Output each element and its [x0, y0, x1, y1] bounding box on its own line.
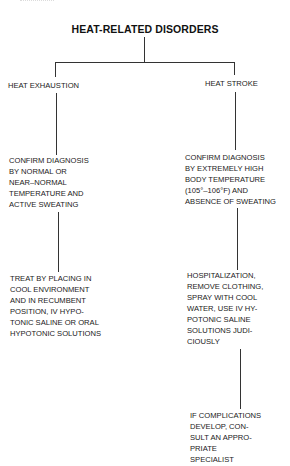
text-line: TREAT BY PLACING IN: [10, 273, 101, 284]
text-line: WATER, USE IV HY-: [187, 303, 263, 314]
node-heat-exhaustion: HEAT EXHAUSTION: [8, 81, 79, 90]
text-line: TONIC SALINE OR ORAL: [10, 317, 101, 328]
text-line: TEMPERATURE AND: [9, 188, 89, 199]
text-line: SPECIALIST: [190, 454, 261, 465]
text-line: (105°–106°F) AND: [185, 185, 276, 196]
connector-bar-to-left-label: [55, 62, 56, 77]
connector-exhaustion-to-diagnosis: [56, 93, 57, 155]
text-line: CIOUSLY: [187, 336, 263, 347]
connector-horizontal-bar: [55, 62, 235, 63]
diagram-title: HEAT-RELATED DISORDERS: [0, 23, 290, 35]
text-line: NEAR–NORMAL: [9, 177, 89, 188]
text-line: BODY TEMPERATURE: [185, 174, 276, 185]
text-line: BY EXTREMELY HIGH: [185, 163, 276, 174]
text-line: AND IN RECUMBENT: [10, 295, 101, 306]
node-heat-stroke: HEAT STROKE: [205, 79, 258, 88]
node-exhaustion-treatment: TREAT BY PLACING IN COOL ENVIRONMENT AND…: [10, 273, 101, 339]
node-stroke-treatment: HOSPITALIZATION, REMOVE CLOTHING, SPRAY …: [187, 270, 263, 347]
connector-bar-to-right-label: [234, 62, 235, 75]
cropped-text-fragment: [20, 0, 54, 1]
text-line: IF COMPLICATIONS: [190, 410, 261, 421]
text-line: ABSENCE OF SWEATING: [185, 196, 276, 207]
text-line: HOSPITALIZATION,: [187, 270, 263, 281]
connector-title-to-bar: [144, 37, 145, 62]
text-line: COOL ENVIRONMENT: [10, 284, 101, 295]
text-line: POTONIC SALINE: [187, 314, 263, 325]
text-line: CONFIRM DIAGNOSIS: [185, 152, 276, 163]
text-line: SPRAY WITH COOL: [187, 292, 263, 303]
text-line: DEVELOP, CON-: [190, 421, 261, 432]
connector-stroke-diagnosis-to-treatment: [237, 208, 238, 270]
text-line: SULT AN APPRO-: [190, 432, 261, 443]
text-line: REMOVE CLOTHING,: [187, 281, 263, 292]
text-line: PRIATE: [190, 443, 261, 454]
node-stroke-complications: IF COMPLICATIONS DEVELOP, CON- SULT AN A…: [190, 410, 261, 465]
connector-stroke-treatment-to-complications: [240, 349, 241, 409]
text-line: POSITION, IV HYPO-: [10, 306, 101, 317]
node-exhaustion-diagnosis: CONFIRM DIAGNOSIS BY NORMAL OR NEAR–NORM…: [9, 155, 89, 210]
text-line: SOLUTIONS JUDI-: [187, 325, 263, 336]
connector-stroke-to-diagnosis: [235, 92, 236, 150]
text-line: ACTIVE SWEATING: [9, 199, 89, 210]
text-line: HYPOTONIC SOLUTIONS: [10, 328, 101, 339]
text-line: BY NORMAL OR: [9, 166, 89, 177]
text-line: CONFIRM DIAGNOSIS: [9, 155, 89, 166]
node-stroke-diagnosis: CONFIRM DIAGNOSIS BY EXTREMELY HIGH BODY…: [185, 152, 276, 207]
connector-exhaustion-diagnosis-to-treatment: [58, 212, 59, 272]
